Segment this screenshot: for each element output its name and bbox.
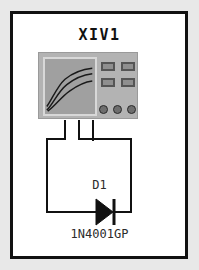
component-part-number-label: 1N4001GP: [0, 227, 199, 241]
instrument-terminal-row: [99, 105, 137, 117]
instrument-terminal-2[interactable]: [113, 105, 122, 114]
instrument-title: XIV1: [0, 27, 199, 44]
iv-curve-trace: [47, 74, 92, 110]
instrument-terminal-1[interactable]: [99, 105, 108, 114]
instrument-readout-3[interactable]: [101, 78, 115, 87]
iv-curve-plot: [45, 59, 95, 114]
iv-curve-trace: [48, 81, 93, 111]
instrument-readout-2[interactable]: [121, 62, 135, 71]
iv-analyzer-instrument[interactable]: [38, 52, 138, 119]
schematic-frame: [10, 11, 188, 259]
instrument-terminal-3[interactable]: [127, 105, 136, 114]
instrument-screen: [43, 57, 97, 116]
instrument-readout-grid: [101, 62, 135, 102]
schematic-canvas: XIV1 D1: [0, 0, 199, 270]
instrument-readout-1[interactable]: [101, 62, 115, 71]
instrument-readout-4[interactable]: [121, 78, 135, 87]
component-designator-label: D1: [0, 178, 199, 192]
